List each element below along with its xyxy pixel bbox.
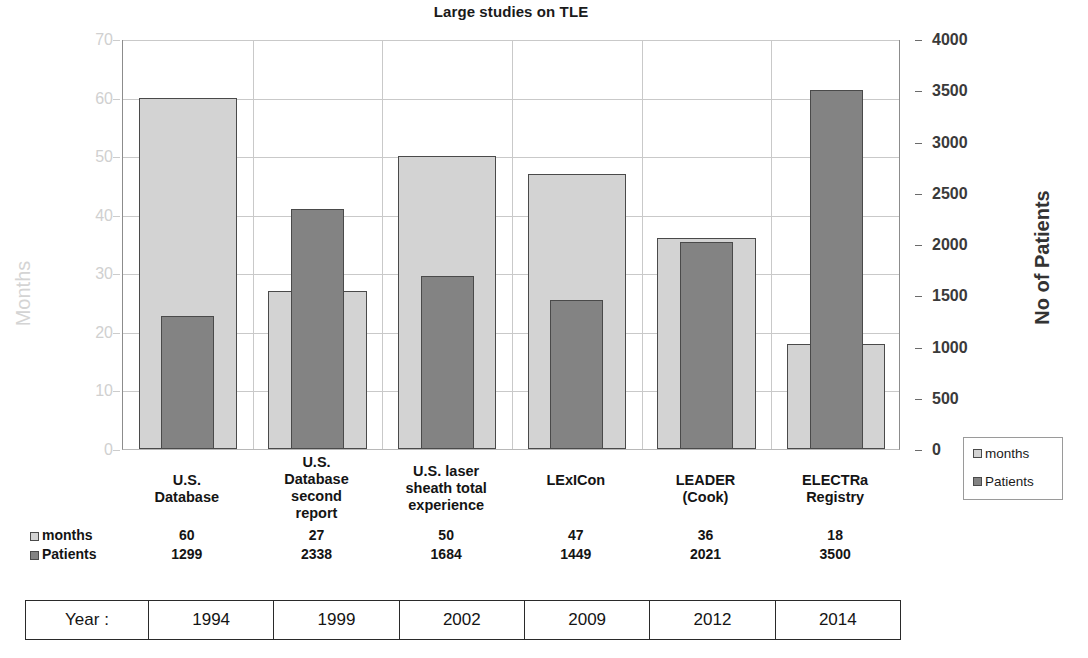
y-axis-right-tick: [915, 143, 922, 144]
gridline-vertical: [382, 40, 383, 449]
table-cell: 47: [511, 527, 641, 543]
y-axis-right-tick: [915, 399, 922, 400]
legend-item[interactable]: months: [973, 446, 1062, 461]
category-label-line: LExICon: [511, 472, 641, 489]
year-table-cell: 2014: [776, 601, 900, 639]
x-axis-category-label: U.S.Database: [122, 472, 252, 506]
y-axis-right-tick-label: 2000: [932, 236, 992, 254]
chart-legend: monthsPatients: [963, 437, 1063, 500]
table-cell: 27: [252, 527, 382, 543]
bar-patients: [680, 242, 733, 449]
gridline-horizontal: [123, 391, 899, 392]
plot-area: [122, 40, 900, 450]
y-axis-left-tick-label: 50: [53, 148, 113, 166]
y-axis-left-tick-label: 40: [53, 207, 113, 225]
table-row: Patients129923381684144920213500: [0, 546, 900, 565]
x-axis-category-label: ELECTRaRegistry: [770, 472, 900, 506]
chart-canvas: Large studies on TLE Months No of Patien…: [0, 0, 1088, 658]
series-key-patients: Patients: [30, 546, 122, 562]
y-axis-right-tick: [915, 450, 922, 451]
table-cell: 3500: [770, 546, 900, 562]
y-axis-right-tick-label: 1000: [932, 339, 992, 357]
table-cell: 1299: [122, 546, 252, 562]
year-table: Year :199419992002200920122014: [25, 600, 901, 640]
gridline-horizontal: [123, 157, 899, 158]
gridline-horizontal: [123, 216, 899, 217]
y-axis-left-title: Months: [12, 224, 35, 364]
y-axis-right-tick: [915, 40, 922, 41]
gridline-horizontal: [123, 333, 899, 334]
bar-patients: [161, 316, 214, 449]
y-axis-left-tick-label: 30: [53, 265, 113, 283]
gridline-horizontal: [123, 40, 899, 41]
y-axis-left-tick: [113, 333, 120, 334]
y-axis-left-tick-label: 70: [53, 31, 113, 49]
table-cell: 1684: [381, 546, 511, 562]
x-axis-category-label: LEADER(Cook): [641, 472, 771, 506]
bar-patients: [421, 276, 474, 449]
series-data-table: months602750473618Patients12992338168414…: [0, 527, 900, 567]
y-axis-right-tick: [915, 245, 922, 246]
y-axis-left-tick: [113, 450, 120, 451]
table-row: months602750473618: [0, 527, 900, 546]
table-cell: 2338: [252, 546, 382, 562]
series-key-label: Patients: [42, 546, 96, 562]
category-label-line: Database: [122, 489, 252, 506]
y-axis-left-tick-label: 60: [53, 90, 113, 108]
category-label-line: (Cook): [641, 489, 771, 506]
y-axis-left-tick: [113, 216, 120, 217]
bar-patients: [550, 300, 603, 449]
y-axis-right-tick: [915, 194, 922, 195]
gridline-vertical: [771, 40, 772, 449]
legend-swatch-icon: [30, 551, 39, 560]
gridline-vertical: [642, 40, 643, 449]
bar-patients: [810, 90, 863, 449]
table-cell: 60: [122, 527, 252, 543]
category-label-line: second: [252, 488, 382, 505]
table-cell: 1449: [511, 546, 641, 562]
y-axis-right-tick-label: 4000: [932, 31, 992, 49]
table-cell: 18: [770, 527, 900, 543]
y-axis-right-tick-label: 2500: [932, 185, 992, 203]
category-label-line: LEADER: [641, 472, 771, 489]
x-axis-category-label: LExICon: [511, 472, 641, 489]
bar-patients: [291, 209, 344, 449]
gridline-vertical: [512, 40, 513, 449]
gridline-horizontal: [123, 99, 899, 100]
y-axis-right-ticks: 05001000150020002500300035004000: [915, 40, 983, 450]
y-axis-left-tick-label: 20: [53, 324, 113, 342]
series-key-label: months: [42, 527, 93, 543]
table-cell: 50: [381, 527, 511, 543]
y-axis-left-tick-label: 0: [53, 441, 113, 459]
category-label-line: U.S.: [122, 472, 252, 489]
category-label-line: Registry: [770, 489, 900, 506]
x-axis-category-label: U.S.Databasesecondreport: [252, 454, 382, 522]
category-label-line: report: [252, 505, 382, 522]
category-label-line: sheath total: [381, 480, 511, 497]
x-axis-category-label: U.S. lasersheath totalexperience: [381, 463, 511, 514]
category-label-line: U.S. laser: [381, 463, 511, 480]
y-axis-left-tick: [113, 391, 120, 392]
y-axis-right-tick-label: 1500: [932, 287, 992, 305]
y-axis-left-tick: [113, 274, 120, 275]
series-key-months: months: [30, 527, 122, 543]
y-axis-right-tick: [915, 348, 922, 349]
y-axis-right-tick-label: 3500: [932, 82, 992, 100]
year-table-cell: 2012: [650, 601, 775, 639]
y-axis-right-tick-label: 3000: [932, 134, 992, 152]
category-label-line: experience: [381, 497, 511, 514]
year-table-cell: 2002: [400, 601, 525, 639]
year-table-cell: 1994: [149, 601, 274, 639]
y-axis-right-tick: [915, 296, 922, 297]
legend-item[interactable]: Patients: [973, 474, 1062, 489]
category-label-line: U.S.: [252, 454, 382, 471]
table-cell: 36: [641, 527, 771, 543]
category-label-line: Database: [252, 471, 382, 488]
year-table-cell: 1999: [274, 601, 399, 639]
legend-swatch-icon: [973, 449, 982, 458]
table-cell: 2021: [641, 546, 771, 562]
y-axis-right-tick: [915, 91, 922, 92]
y-axis-right-title: No of Patients: [1031, 168, 1054, 348]
x-axis-category-labels: U.S.DatabaseU.S.DatabasesecondreportU.S.…: [122, 452, 900, 524]
gridline-vertical: [253, 40, 254, 449]
